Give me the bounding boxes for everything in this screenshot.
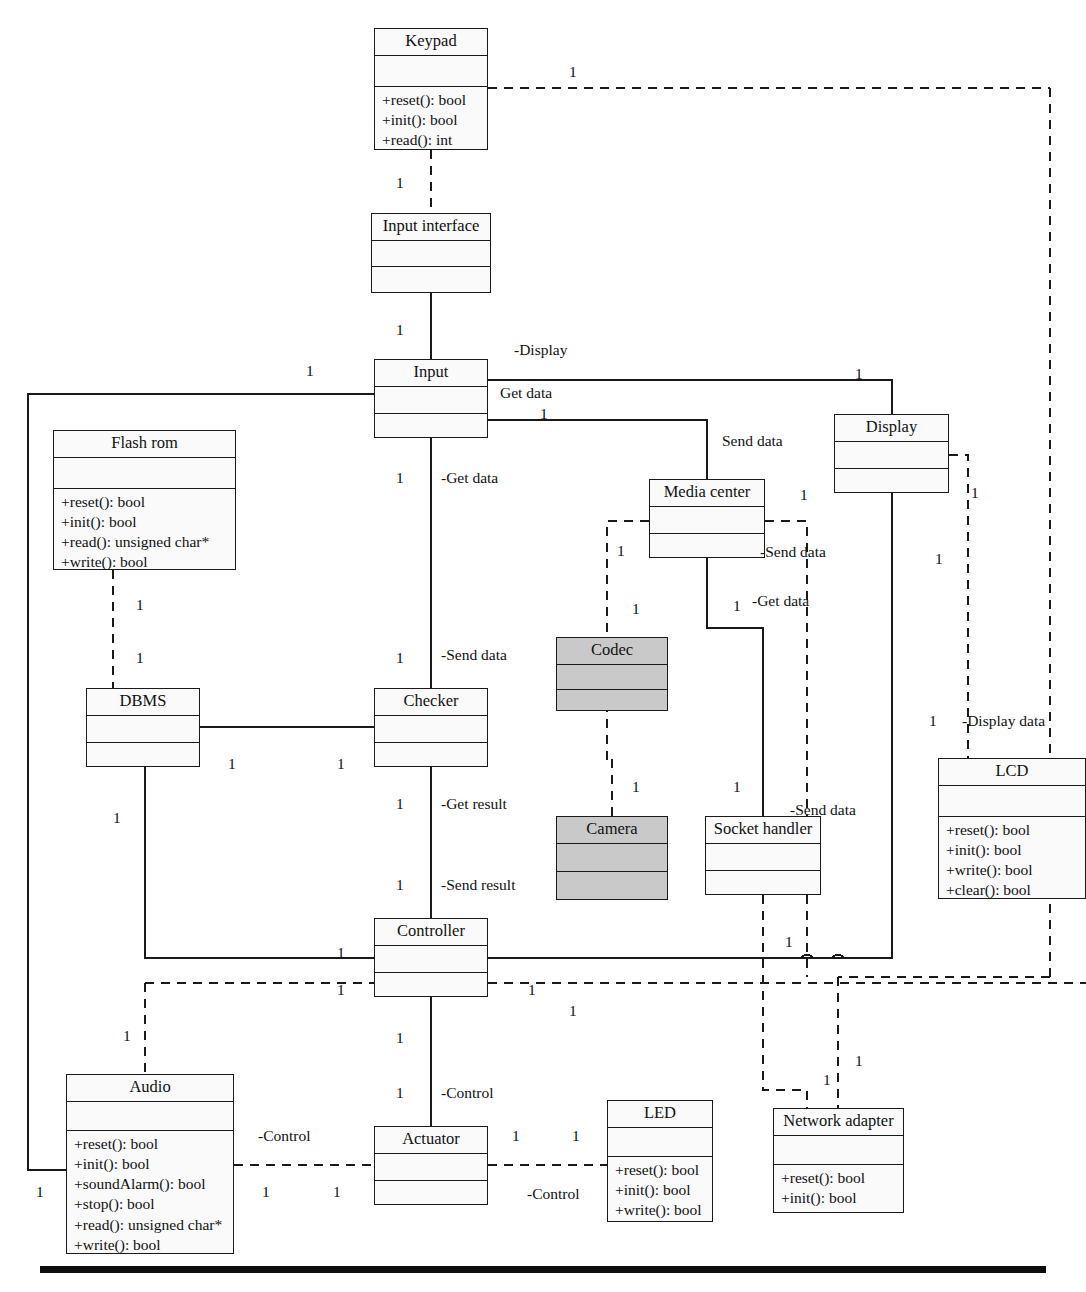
class-box-dbms[interactable]: DBMS bbox=[86, 688, 200, 767]
class-attributes-codec bbox=[557, 665, 667, 690]
operation: +stop(): bool bbox=[74, 1194, 226, 1214]
class-name-media_center: Media center bbox=[650, 480, 764, 507]
class-name-socket_handler: Socket handler bbox=[706, 817, 820, 844]
class-box-network_adapter[interactable]: Network adapter+reset(): bool+init(): bo… bbox=[773, 1108, 904, 1213]
class-name-flash_rom: Flash rom bbox=[54, 431, 235, 458]
class-box-input_interface[interactable]: Input interface bbox=[371, 213, 491, 293]
class-box-controller[interactable]: Controller bbox=[374, 918, 488, 997]
multiplicity-m-dbms-right: 1 bbox=[228, 756, 236, 772]
role-label-lbl-get-data-1: Get data bbox=[500, 385, 552, 401]
class-box-led[interactable]: LED+reset(): bool+init(): bool+write(): … bbox=[607, 1100, 713, 1222]
multiplicity-m-checker-left: 1 bbox=[337, 756, 345, 772]
operation: +read(): unsigned char* bbox=[74, 1215, 226, 1235]
operation: +init(): bool bbox=[946, 840, 1078, 860]
role-label-lbl-send-data-4: -Send data bbox=[790, 802, 856, 818]
multiplicity-m-mc-getdata: 1 bbox=[733, 598, 741, 614]
class-operations-controller bbox=[375, 973, 487, 981]
class-box-checker[interactable]: Checker bbox=[374, 688, 488, 767]
role-label-lbl-control-1: -Control bbox=[441, 1085, 494, 1101]
multiplicity-m-ctrl-down: 1 bbox=[396, 1030, 404, 1046]
multiplicity-m-ctrl-left-1: 1 bbox=[337, 945, 345, 961]
multiplicity-m-ctrl-right-3: 1 bbox=[569, 1003, 577, 1019]
operation: +init(): bool bbox=[74, 1154, 226, 1174]
class-name-keypad: Keypad bbox=[375, 29, 487, 56]
multiplicity-m-keypad-bottom: 1 bbox=[396, 175, 404, 191]
multiplicity-m-led-left: 1 bbox=[572, 1128, 580, 1144]
class-name-led: LED bbox=[608, 1101, 712, 1128]
class-operations-input bbox=[375, 414, 487, 422]
class-box-audio[interactable]: Audio+reset(): bool+init(): bool+soundAl… bbox=[66, 1074, 234, 1254]
class-name-actuator: Actuator bbox=[375, 1127, 487, 1154]
multiplicity-m-flash-bottom: 1 bbox=[136, 597, 144, 613]
class-name-controller: Controller bbox=[375, 919, 487, 946]
class-box-lcd[interactable]: LCD+reset(): bool+init(): bool+write(): … bbox=[938, 758, 1086, 899]
multiplicity-m-ii-bottom: 1 bbox=[396, 322, 404, 338]
class-box-display[interactable]: Display bbox=[834, 414, 949, 493]
class-attributes-input_interface bbox=[372, 241, 490, 267]
role-label-lbl-control-3: -Control bbox=[527, 1186, 580, 1202]
class-attributes-dbms bbox=[87, 716, 199, 743]
class-box-media_center[interactable]: Media center bbox=[649, 479, 765, 558]
multiplicity-m-input-left: 1 bbox=[306, 363, 314, 379]
multiplicity-m-mc-right: 1 bbox=[800, 487, 808, 503]
multiplicity-m-getdata-1: 1 bbox=[540, 406, 548, 422]
assoc-sockethandler-networkadapter bbox=[763, 895, 807, 1108]
multiplicity-m-checker-down-2: 1 bbox=[396, 877, 404, 893]
assoc-camera-up bbox=[607, 760, 612, 816]
class-box-socket_handler[interactable]: Socket handler bbox=[705, 816, 821, 895]
multiplicity-m-audio-right: 1 bbox=[262, 1184, 270, 1200]
multiplicity-m-na-left: 1 bbox=[823, 1072, 831, 1088]
multiplicity-m-lcd-top: 1 bbox=[929, 713, 937, 729]
class-operations-socket_handler bbox=[706, 871, 820, 879]
operation: +init(): bool bbox=[615, 1180, 705, 1200]
class-attributes-checker bbox=[375, 716, 487, 743]
class-name-dbms: DBMS bbox=[87, 689, 199, 716]
class-box-camera[interactable]: Camera bbox=[556, 816, 668, 900]
multiplicity-m-dbms-down: 1 bbox=[113, 810, 121, 826]
operation: +init(): bool bbox=[781, 1188, 896, 1208]
class-name-codec: Codec bbox=[557, 638, 667, 665]
class-attributes-audio bbox=[67, 1102, 233, 1131]
class-attributes-keypad bbox=[375, 56, 487, 87]
multiplicity-m-display-right: 1 bbox=[971, 485, 979, 501]
bottom-rule bbox=[40, 1266, 1046, 1273]
class-name-checker: Checker bbox=[375, 689, 487, 716]
class-operations-display bbox=[835, 469, 948, 477]
multiplicity-m-checker-down-1: 1 bbox=[396, 796, 404, 812]
class-name-camera: Camera bbox=[557, 817, 667, 844]
class-operations-media_center bbox=[650, 534, 764, 542]
operation: +reset(): bool bbox=[946, 820, 1078, 840]
role-label-lbl-get-data-3: -Get data bbox=[752, 593, 809, 609]
multiplicity-m-display-top: 1 bbox=[855, 366, 863, 382]
class-box-flash_rom[interactable]: Flash rom+reset(): bool+init(): bool+rea… bbox=[53, 430, 236, 570]
class-operations-led: +reset(): bool+init(): bool+write(): boo… bbox=[608, 1157, 712, 1225]
role-label-lbl-display-data: -Display data bbox=[962, 713, 1045, 729]
class-operations-dbms bbox=[87, 743, 199, 751]
role-label-lbl-get-data-2: -Get data bbox=[441, 470, 498, 486]
multiplicity-m-actuator-left: 1 bbox=[333, 1184, 341, 1200]
assoc-mediacenter-codec bbox=[607, 521, 649, 637]
assoc-display-controller bbox=[488, 493, 892, 958]
class-attributes-socket_handler bbox=[706, 844, 820, 871]
multiplicity-m-checker-top: 1 bbox=[396, 650, 404, 666]
role-label-lbl-send-data-1: Send data bbox=[722, 433, 783, 449]
class-operations-camera bbox=[557, 872, 667, 880]
class-operations-codec bbox=[557, 690, 667, 698]
class-attributes-flash_rom bbox=[54, 458, 235, 489]
role-label-lbl-control-2: -Control bbox=[258, 1128, 311, 1144]
class-box-actuator[interactable]: Actuator bbox=[374, 1126, 488, 1205]
multiplicity-m-camera-top: 1 bbox=[632, 779, 640, 795]
class-operations-lcd: +reset(): bool+init(): bool+write(): boo… bbox=[939, 817, 1085, 906]
class-attributes-display bbox=[835, 442, 948, 469]
class-operations-actuator bbox=[375, 1181, 487, 1189]
class-box-input[interactable]: Input bbox=[374, 359, 488, 438]
class-box-codec[interactable]: Codec bbox=[556, 637, 668, 711]
operation: +write(): bool bbox=[946, 860, 1078, 880]
class-box-keypad[interactable]: Keypad+reset(): bool+init(): bool+read()… bbox=[374, 28, 488, 150]
class-operations-flash_rom: +reset(): bool+init(): bool+read(): unsi… bbox=[54, 489, 235, 578]
operation: +read(): unsigned char* bbox=[61, 532, 228, 552]
class-attributes-camera bbox=[557, 844, 667, 872]
class-operations-network_adapter: +reset(): bool+init(): bool bbox=[774, 1165, 903, 1213]
role-label-lbl-get-result: -Get result bbox=[441, 796, 507, 812]
class-attributes-led bbox=[608, 1128, 712, 1157]
